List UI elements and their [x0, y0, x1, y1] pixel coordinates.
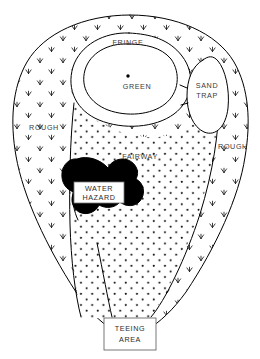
label-rough-left: ROUGH	[29, 123, 59, 132]
label-green: GREEN	[123, 82, 152, 91]
label-rough-right: ROUGH	[218, 142, 248, 151]
green-outline	[84, 44, 178, 114]
label-sand-trap-line1: SAND	[196, 81, 218, 90]
pin-marker	[126, 74, 129, 77]
golf-hole-diagram: FRINGE GREEN SAND TRAP ROUGH ROUGH FAIRW…	[0, 0, 260, 359]
label-fringe: FRINGE	[113, 38, 144, 47]
label-sand-trap-line2: TRAP	[196, 91, 218, 100]
label-teeing-area-line1: TEEING	[115, 324, 145, 333]
label-teeing-area-line2: AREA	[119, 335, 141, 344]
region-green	[84, 44, 178, 114]
label-fairway: FAIRWAY	[122, 152, 158, 161]
hole-map-svg: FRINGE GREEN SAND TRAP ROUGH ROUGH FAIRW…	[0, 0, 260, 359]
label-water-hazard-line1: WATER	[85, 184, 113, 193]
label-water-hazard-line2: HAZARD	[82, 193, 115, 202]
